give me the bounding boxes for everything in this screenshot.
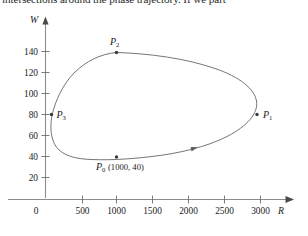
- page-caption-text: intersections around the phase trajector…: [0, 0, 308, 6]
- p0-dot: [115, 155, 118, 158]
- y-axis-label: W: [30, 14, 39, 25]
- caption-label: intersections around the phase trajector…: [0, 0, 308, 6]
- x-tick-label-500: 500: [75, 206, 89, 216]
- y-tick-labels: 20 40 60 80 100 120 140: [24, 47, 38, 183]
- y-tick-label-20: 20: [29, 173, 39, 183]
- point-p2: P2: [109, 36, 119, 54]
- y-tick-label-40: 40: [29, 152, 39, 162]
- p2-label: P2: [109, 36, 119, 48]
- y-tick-label-140: 140: [24, 47, 38, 57]
- y-tick-label-60: 60: [29, 131, 39, 141]
- x-axis-arrowhead: [286, 196, 295, 203]
- p2-dot: [115, 51, 118, 54]
- phase-trajectory-figure: 20 40 60 80 100 120 140 500 1000 1500 20…: [0, 10, 308, 236]
- origin-label: 0: [34, 206, 39, 216]
- axes-group: [8, 17, 294, 203]
- p3-label: P3: [56, 109, 67, 121]
- phase-trajectory-curve: [51, 53, 257, 160]
- y-tick-label-100: 100: [24, 89, 38, 99]
- x-tick-label-1500: 1500: [143, 206, 162, 216]
- x-axis-label: R: [277, 205, 284, 216]
- x-tick-label-1000: 1000: [107, 206, 126, 216]
- y-tick-label-80: 80: [29, 110, 39, 120]
- point-p1: P1: [255, 109, 272, 121]
- flow-direction-arrow: [191, 147, 198, 151]
- x-tick-labels: 500 1000 1500 2000 2500 3000: [75, 206, 270, 216]
- x-tick-label-2500: 2500: [215, 206, 234, 216]
- y-axis-arrowhead: [42, 17, 48, 25]
- p1-label: P1: [262, 109, 272, 121]
- x-tick-label-2000: 2000: [179, 206, 198, 216]
- p0-label: P0(1000, 40): [95, 161, 144, 173]
- phase-plot-svg: 20 40 60 80 100 120 140 500 1000 1500 20…: [0, 10, 308, 236]
- p3-dot: [50, 113, 53, 116]
- y-tick-label-120: 120: [24, 68, 38, 78]
- x-tick-label-3000: 3000: [251, 206, 270, 216]
- p1-dot: [255, 113, 258, 116]
- point-p3: P3: [50, 109, 67, 121]
